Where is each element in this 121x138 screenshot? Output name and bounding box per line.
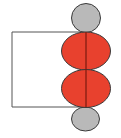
orbital-diagram xyxy=(0,0,121,138)
bottom-gray-lobe xyxy=(72,107,100,131)
top-gray-lobe xyxy=(72,4,101,33)
